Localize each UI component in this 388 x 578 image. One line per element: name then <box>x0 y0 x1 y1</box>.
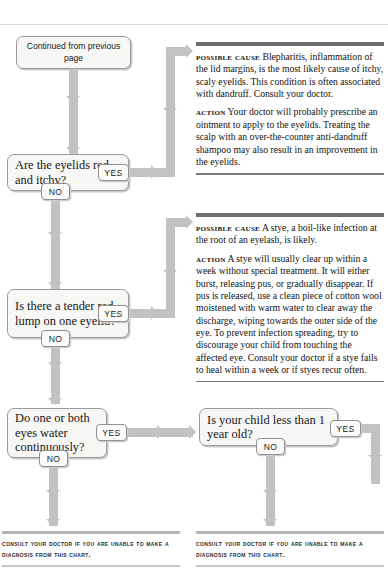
q3-yes-pill: YES <box>96 424 127 441</box>
q4-yes-label: YES <box>336 424 354 434</box>
q1-yes-pill: YES <box>98 164 129 181</box>
arrowhead-q2-yes-down <box>163 270 177 277</box>
advice2-rule-bottom <box>196 381 384 382</box>
footer-left-rule-bottom <box>2 565 180 567</box>
arrowhead-q2-no-mid <box>48 362 62 369</box>
arrowhead-q1-no-end <box>48 282 62 289</box>
arrowhead-q3-no-end <box>46 519 60 526</box>
advice1-action: Action Your doctor will probably prescri… <box>196 106 384 168</box>
arrowhead-q3-yes-first <box>157 425 164 439</box>
advice1-rule-bottom <box>196 173 384 174</box>
q1-no-label: NO <box>49 187 63 197</box>
q2-no-pill: NO <box>41 330 70 347</box>
q3-yes-label: YES <box>102 428 120 438</box>
start-box-continued-from-previous-page: Continued from previous page <box>16 36 131 69</box>
q4-yes-pill: YES <box>330 420 361 437</box>
advice1-rule-top <box>196 42 384 46</box>
advice2-possible-cause: Possible cause A stye, a boil-like infec… <box>196 222 384 247</box>
advice-block-stye: Possible cause A stye, a boil-like infec… <box>196 213 384 382</box>
start-box-label: Continued from previous page <box>17 41 130 64</box>
symptom-flowchart: Continued from previous page Are the eye… <box>0 0 388 578</box>
q2-yes-pill: YES <box>98 305 129 322</box>
q1-yes-label: YES <box>104 168 122 178</box>
connector-q4-no-to-footer <box>266 446 275 526</box>
advice1-cause-label: Possible cause <box>196 51 260 62</box>
advice2-action-label: Action <box>196 253 226 264</box>
advice2-action-text: A stye will usually clear up within a we… <box>196 253 382 375</box>
connector-q1-yes-horizontal <box>129 168 167 177</box>
q2-no-label: NO <box>49 334 63 344</box>
footer-right-rule-bottom <box>196 565 384 567</box>
q2-yes-label: YES <box>104 309 122 319</box>
footer-right-text: Consult your doctor if you are unable to… <box>196 534 384 565</box>
advice-block-blepharitis: Possible cause Blepharitis, inflammation… <box>196 42 384 175</box>
q4-no-pill: NO <box>256 438 285 455</box>
arrowhead-q1-yes-down <box>163 108 177 115</box>
arrowhead-q2-into-advice2 <box>186 215 193 229</box>
arrowhead-q4-no-end <box>263 519 277 526</box>
arrowhead-q4-yes-down <box>368 455 382 462</box>
arrowhead-q3-no-mid <box>46 490 60 497</box>
connector-q2-no-to-q3 <box>51 338 60 404</box>
arrowhead-q4-no-mid <box>263 490 277 497</box>
arrowhead-start-to-q1-lower <box>66 147 80 154</box>
arrowhead-q3-yes-second <box>189 425 196 439</box>
advice2-cause-label: Possible cause <box>196 222 260 233</box>
advice2-rule-top <box>196 213 384 217</box>
advice1-possible-cause: Possible cause Blepharitis, inflammation… <box>196 51 384 101</box>
connector-q2-yes-vertical <box>166 218 175 318</box>
connector-q2-yes-horizontal <box>129 309 167 318</box>
footer-notice-right: Consult your doctor if you are unable to… <box>196 531 384 567</box>
arrowhead-q2-no-end <box>48 398 62 405</box>
page-top-rule <box>0 24 388 25</box>
arrowhead-start-to-q1 <box>66 96 80 103</box>
advice2-action: Action A stye will usually clear up with… <box>196 253 384 377</box>
arrowhead-q1-no-mid <box>48 232 62 239</box>
connector-start-to-q1 <box>69 69 78 154</box>
arrowhead-q1-yes-mid <box>151 165 158 179</box>
q3-no-label: NO <box>47 454 61 464</box>
q3-no-pill: NO <box>39 450 68 467</box>
arrowhead-q1-into-advice1 <box>186 44 193 58</box>
question-label-q3: Do one or both eyes water continuously? <box>8 411 106 454</box>
footer-notice-left: Consult your doctor if you are unable to… <box>2 531 180 567</box>
connector-q1-no-to-q2 <box>51 191 60 289</box>
q4-no-label: NO <box>264 442 278 452</box>
connector-q4-yes-vertical <box>371 424 380 484</box>
arrowhead-q2-yes-mid <box>151 306 158 320</box>
q1-no-pill: NO <box>41 183 70 200</box>
footer-left-text: Consult your doctor if you are unable to… <box>2 534 180 565</box>
advice1-action-label: Action <box>196 106 226 117</box>
